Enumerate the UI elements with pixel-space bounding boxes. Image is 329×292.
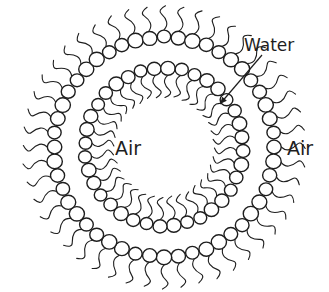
molecule-tail — [40, 206, 62, 219]
molecule-tail — [51, 218, 71, 233]
molecule-tail — [125, 190, 138, 208]
molecule-tail — [280, 125, 304, 133]
molecule-head — [48, 126, 61, 139]
molecule-tail — [94, 131, 115, 138]
molecule-head — [142, 32, 157, 46]
molecule-tail — [210, 165, 230, 175]
molecule-tail — [97, 119, 117, 129]
molecule-head — [194, 212, 207, 224]
molecule-tail — [277, 108, 301, 118]
molecule-head — [115, 38, 129, 51]
molecule-head — [104, 198, 118, 211]
molecule-head — [185, 34, 200, 49]
molecule-tail — [211, 125, 232, 135]
molecule-head — [232, 117, 247, 131]
molecule-head — [267, 140, 281, 154]
molecule-tail — [201, 180, 217, 196]
molecule-tail — [281, 161, 305, 167]
molecule-tail — [197, 94, 213, 110]
molecule-tail — [42, 75, 62, 88]
inner-molecule-ring — [79, 61, 250, 233]
molecule-head — [153, 220, 167, 233]
molecule-tail — [213, 157, 234, 164]
molecule-tail — [272, 192, 294, 203]
molecule-tail — [136, 194, 146, 214]
molecule-head — [167, 218, 181, 232]
molecule-head — [55, 98, 70, 113]
molecule-tail — [193, 259, 203, 283]
molecule-head — [128, 33, 143, 48]
molecule-tail — [144, 263, 150, 287]
molecule-head — [234, 158, 249, 172]
molecule-head — [84, 109, 98, 122]
molecule-tail — [92, 248, 105, 268]
molecule-head — [143, 249, 157, 263]
molecule-tail — [273, 91, 296, 103]
molecule-tail — [182, 81, 192, 101]
molecule-tail — [77, 33, 92, 53]
molecule-head — [89, 52, 104, 66]
water-label: Water — [244, 37, 294, 54]
molecule-tail — [126, 260, 134, 283]
molecule-tail — [92, 140, 114, 146]
molecule-tail — [93, 25, 106, 47]
molecule-tail — [103, 108, 121, 121]
molecule-head — [236, 145, 250, 158]
molecule-head — [157, 30, 170, 43]
inner-air-label: Air — [115, 139, 141, 158]
molecule-head — [134, 65, 147, 77]
molecule-tail — [161, 265, 168, 289]
molecule-head — [79, 137, 92, 149]
molecule-head — [258, 98, 273, 113]
molecule-head — [267, 126, 280, 139]
molecule-head — [90, 228, 104, 241]
molecule-head — [235, 131, 249, 144]
molecule-tail — [235, 240, 250, 260]
molecule-tail — [115, 184, 131, 200]
molecule-head — [47, 140, 61, 154]
molecule-head — [186, 246, 199, 259]
molecule-tail — [53, 60, 71, 76]
molecule-head — [121, 71, 135, 84]
molecule-head — [171, 31, 185, 45]
molecule-head — [147, 62, 161, 75]
molecule-head — [51, 169, 65, 182]
molecule-tail — [111, 98, 127, 114]
molecule-tail — [266, 75, 288, 88]
molecule-tail — [214, 148, 236, 154]
molecule-head — [244, 74, 258, 87]
molecule-tail — [203, 103, 221, 117]
molecule-head — [103, 46, 117, 59]
molecule-tail — [64, 229, 82, 246]
molecule-head — [161, 61, 176, 75]
molecule-head — [61, 195, 76, 209]
molecule-head — [87, 176, 101, 189]
molecule-tail — [23, 160, 47, 168]
molecule-tail — [77, 240, 93, 258]
molecule-head — [262, 112, 277, 126]
molecule-head — [263, 169, 277, 182]
molecule-tail — [28, 109, 51, 117]
molecule-tail — [109, 255, 120, 277]
molecule-tail — [164, 76, 170, 98]
molecule-tail — [186, 192, 198, 212]
molecule-head — [228, 105, 241, 118]
molecule-head — [199, 38, 213, 51]
molecule-tail — [177, 263, 185, 287]
molecule-tail — [27, 176, 51, 186]
molecule-tail — [190, 87, 203, 105]
molecule-head — [80, 123, 94, 137]
molecule-tail — [160, 6, 167, 30]
molecule-tail — [208, 174, 226, 187]
molecule-tail — [247, 230, 264, 248]
molecule-head — [51, 112, 66, 126]
molecule-tail — [64, 46, 81, 64]
molecule-tail — [194, 11, 202, 34]
molecule-tail — [277, 177, 300, 185]
outer-air-label: Air — [287, 139, 313, 158]
molecule-head — [188, 69, 201, 81]
molecule-tail — [256, 61, 276, 76]
molecule-tail — [125, 10, 135, 34]
molecule-head — [56, 182, 70, 195]
molecule-head — [266, 154, 281, 169]
